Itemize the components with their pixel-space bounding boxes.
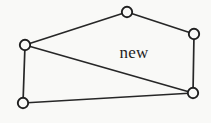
edge-right-to-bottom-right xyxy=(193,34,194,93)
vertex-right[interactable] xyxy=(189,29,199,39)
edge-bottom-left-to-left xyxy=(23,45,25,103)
vertex-left[interactable] xyxy=(20,40,30,50)
vertex-bottom-left[interactable] xyxy=(18,98,28,108)
vertex-bottom-right[interactable] xyxy=(188,88,198,98)
vertex-group xyxy=(18,7,199,108)
figure-canvas xyxy=(0,0,211,123)
chord-left-to-bottom-right xyxy=(25,45,193,93)
vertex-top[interactable] xyxy=(122,7,132,17)
chord-group xyxy=(25,45,193,93)
edge-bottom-right-to-bottom-left xyxy=(23,93,193,103)
edge-group xyxy=(23,12,194,103)
polygon-figure: new xyxy=(0,0,211,123)
edge-left-to-top xyxy=(25,12,127,45)
edge-top-to-right xyxy=(127,12,194,34)
region-label-new: new xyxy=(120,44,149,61)
